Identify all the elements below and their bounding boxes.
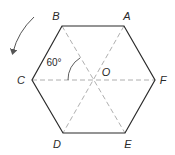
diagonals xyxy=(32,26,155,133)
center-label-o: O xyxy=(102,67,111,78)
vertex-label-d: D xyxy=(53,139,61,150)
vertex-label-a: A xyxy=(123,11,130,22)
angle-label: 60° xyxy=(46,58,61,68)
rotation-arrow-icon xyxy=(13,17,34,52)
hexagon-outline xyxy=(32,26,155,133)
angle-arc xyxy=(68,58,80,80)
vertex-label-f: F xyxy=(160,75,167,86)
vertex-label-b: B xyxy=(52,11,59,22)
vertex-label-e: E xyxy=(124,139,131,150)
diagonal-b-e xyxy=(62,26,125,133)
vertex-label-c: C xyxy=(17,75,25,86)
diagonal-a-d xyxy=(63,26,124,133)
hexagon-figure xyxy=(0,0,175,155)
